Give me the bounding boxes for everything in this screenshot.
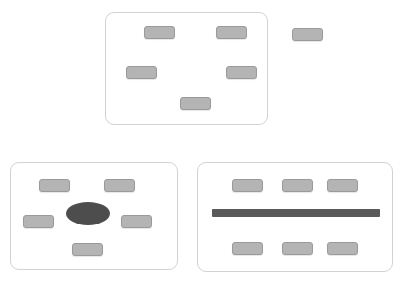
node-appl[interactable] xyxy=(72,243,103,256)
node-appl[interactable] xyxy=(232,242,263,255)
node-appl[interactable] xyxy=(232,179,263,192)
node-appl[interactable] xyxy=(327,242,358,255)
hub-node[interactable] xyxy=(66,202,110,225)
legend-swatch-appl xyxy=(292,28,323,41)
node-appl[interactable] xyxy=(126,66,157,79)
node-appl[interactable] xyxy=(216,26,247,39)
node-appl[interactable] xyxy=(121,215,152,228)
node-appl[interactable] xyxy=(282,242,313,255)
node-appl[interactable] xyxy=(226,66,257,79)
node-appl[interactable] xyxy=(327,179,358,192)
node-appl[interactable] xyxy=(23,215,54,228)
node-appl[interactable] xyxy=(282,179,313,192)
bus-bar xyxy=(212,209,380,217)
node-appl[interactable] xyxy=(39,179,70,192)
node-appl[interactable] xyxy=(144,26,175,39)
node-appl[interactable] xyxy=(104,179,135,192)
diagram-canvas xyxy=(0,0,408,287)
node-appl[interactable] xyxy=(180,97,211,110)
